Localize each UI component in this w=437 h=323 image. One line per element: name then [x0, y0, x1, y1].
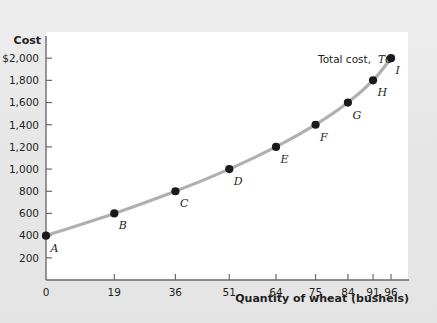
data-point-a: [42, 232, 50, 240]
curve-series-label: Total cost,: [317, 53, 371, 65]
data-point-label-g: G: [352, 109, 361, 122]
y-tick-label: 800: [19, 185, 39, 197]
data-point-label-i: I: [395, 64, 401, 77]
data-point-e: [272, 143, 280, 151]
x-tick-label: 19: [108, 286, 121, 298]
y-tick-label: 1,400: [9, 119, 39, 131]
data-point-label-c: C: [180, 197, 189, 210]
y-axis-tickmarks: [46, 58, 52, 258]
y-tick-label: 1,000: [9, 163, 39, 175]
cost-curve-chart: ABCDEFGHI 2004006008001,0001,2001,4001,6…: [0, 0, 437, 323]
data-point-label-a: A: [50, 242, 59, 255]
x-tick-label: 0: [43, 286, 50, 298]
data-point-label-b: B: [118, 219, 127, 232]
total-cost-curve: [46, 58, 391, 235]
data-point-d: [225, 165, 233, 173]
y-tick-label: 1,600: [9, 96, 39, 108]
data-point-labels-layer: ABCDEFGHI: [50, 64, 401, 254]
data-point-label-h: H: [377, 86, 388, 99]
data-point-label-e: E: [280, 153, 289, 166]
y-tick-label: 600: [19, 207, 39, 219]
data-point-c: [171, 187, 179, 195]
y-tick-label: 1,200: [9, 141, 39, 153]
data-point-b: [110, 209, 118, 217]
x-tick-label: 51: [223, 286, 236, 298]
data-point-g: [344, 98, 352, 106]
y-tick-label: 200: [19, 252, 39, 264]
data-point-label-f: F: [319, 131, 328, 144]
data-point-h: [369, 76, 377, 84]
y-axis-title: Cost: [14, 34, 41, 47]
x-axis-title: Quantity of wheat (bushels): [235, 292, 409, 305]
x-axis-tickmarks: [114, 274, 391, 280]
curve-series-label-tc: TC: [378, 53, 393, 65]
x-tick-label: 36: [169, 286, 183, 298]
data-point-f: [311, 121, 319, 129]
figure-background: ABCDEFGHI 2004006008001,0001,2001,4001,6…: [0, 0, 437, 323]
y-axis-tick-labels: 2004006008001,0001,2001,4001,6001,800$2,…: [2, 52, 39, 264]
data-points-layer: [42, 54, 395, 240]
y-tick-label: $2,000: [2, 52, 39, 64]
y-tick-label: 1,800: [9, 74, 39, 86]
y-tick-label: 400: [19, 229, 39, 241]
data-point-label-d: D: [233, 175, 243, 188]
